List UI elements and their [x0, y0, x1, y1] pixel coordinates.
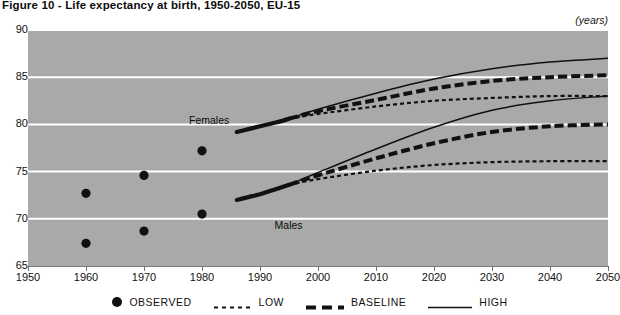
legend-item-baseline[interactable]: BASELINE — [306, 296, 406, 308]
observed-point — [81, 189, 90, 198]
legend-item-high[interactable]: HIGH — [428, 296, 507, 308]
x-tick-2050: 2050 — [596, 272, 620, 283]
series-label-males: Males — [275, 219, 303, 231]
solid-line-swatch — [428, 298, 472, 307]
legend-item-low[interactable]: LOW — [214, 296, 284, 308]
x-tick-2020: 2020 — [422, 272, 446, 283]
series-line-high — [289, 58, 608, 118]
x-tick-2040: 2040 — [538, 272, 562, 283]
y-tick-75: 75 — [0, 166, 28, 177]
y-tick-80: 80 — [0, 118, 28, 129]
observed-point — [197, 209, 206, 218]
x-tick-2010: 2010 — [364, 272, 388, 283]
y-tick-70: 70 — [0, 213, 28, 224]
legend-label-baseline: BASELINE — [351, 296, 406, 308]
observed-point — [81, 239, 90, 248]
series-line-baseline — [289, 75, 608, 118]
legend-label-low: LOW — [259, 296, 284, 308]
series-line-baseline — [289, 124, 608, 184]
observed-point — [197, 146, 206, 155]
x-tick-1980: 1980 — [190, 272, 214, 283]
y-tick-65: 65 — [0, 260, 28, 271]
chart-legend: OBSERVEDLOWBASELINEHIGH — [0, 292, 620, 312]
legend-item-observed[interactable]: OBSERVED — [112, 296, 191, 308]
figure-container: Figure 10 - Life expectancy at birth, 19… — [0, 0, 620, 315]
dashed-thick-line-swatch — [306, 298, 344, 307]
legend-label-observed: OBSERVED — [129, 296, 191, 308]
filled-circle-marker — [112, 297, 122, 307]
x-tick-1970: 1970 — [132, 272, 156, 283]
dotted-line-swatch — [214, 298, 252, 307]
x-tick-1950: 1950 — [16, 272, 40, 283]
figure-title: Figure 10 - Life expectancy at birth, 19… — [2, 0, 300, 11]
y-tick-90: 90 — [0, 24, 28, 35]
observed-point — [139, 171, 148, 180]
series-label-females: Females — [189, 114, 229, 126]
y-tick-85: 85 — [0, 71, 28, 82]
x-tick-2000: 2000 — [306, 272, 330, 283]
plot-area: Females Males — [28, 30, 608, 266]
observed-point — [139, 226, 148, 235]
series-line-historic — [237, 185, 289, 200]
x-tick-1960: 1960 — [74, 272, 98, 283]
x-tick-1990: 1990 — [248, 272, 272, 283]
y-axis-units-label: (years) — [575, 14, 608, 26]
chart-canvas — [28, 30, 608, 266]
legend-label-high: HIGH — [479, 296, 507, 308]
x-tick-2030: 2030 — [480, 272, 504, 283]
